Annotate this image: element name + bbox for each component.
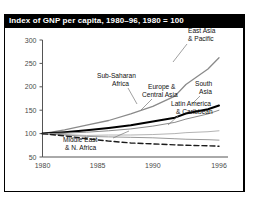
label-south-asia-line2: Asia (199, 88, 212, 95)
label-middle-east-n-africa-line1: Middle East (63, 136, 98, 143)
label-europe-central-asia-line1: Europe & (148, 83, 176, 91)
label-east-asia-pacific-line2: & Pacific (188, 35, 214, 42)
label-south-asia: South Asia (195, 80, 213, 95)
x-axis-tick-labels: 1980198519901996 (35, 162, 227, 169)
leader-sub-saharan-africa (128, 88, 137, 104)
label-middle-east-n-africa: Middle East & N. Africa (63, 136, 98, 151)
label-sub-saharan-africa-line1: Sub-Saharan (97, 72, 136, 79)
x-tick-1990: 1990 (145, 162, 161, 169)
chart-svg: 50100150200250300 1980198519901996 East … (0, 0, 253, 199)
plot-area: 50100150200250300 1980198519901996 East … (0, 0, 253, 199)
x-tick-1996: 1996 (211, 162, 227, 169)
y-tick-150: 150 (25, 107, 37, 114)
label-middle-east-n-africa-line2: & N. Africa (65, 144, 96, 151)
y-tick-200: 200 (25, 83, 37, 90)
y-tick-50: 50 (29, 154, 37, 161)
y-tick-100: 100 (25, 130, 37, 137)
chart-figure: Index of GNP per capita, 1980–96, 1980 =… (0, 0, 253, 199)
label-latin-america-caribbean-line1: Latin America (171, 100, 211, 107)
label-south-asia-line1: South (195, 80, 213, 87)
label-east-asia-pacific-line1: East Asia (188, 27, 216, 34)
label-east-asia-pacific: East Asia & Pacific (188, 27, 216, 42)
label-sub-saharan-africa: Sub-Saharan Africa (97, 72, 136, 87)
label-europe-central-asia: Europe & Central Asia (142, 83, 178, 98)
label-latin-america-caribbean: Latin America & Caribbean (171, 100, 213, 115)
x-tick-1985: 1985 (90, 162, 106, 169)
x-tick-1980: 1980 (35, 162, 51, 169)
leader-east-asia-pacific (173, 44, 187, 62)
y-tick-250: 250 (25, 60, 37, 67)
label-sub-saharan-africa-line2: Africa (112, 80, 129, 87)
label-europe-central-asia-line2: Central Asia (142, 91, 178, 98)
label-latin-america-caribbean-line2: & Caribbean (176, 108, 213, 115)
series-line-east-asia-pacific (43, 58, 220, 134)
y-tick-300: 300 (25, 37, 37, 44)
y-axis-tick-labels: 50100150200250300 (25, 37, 37, 161)
